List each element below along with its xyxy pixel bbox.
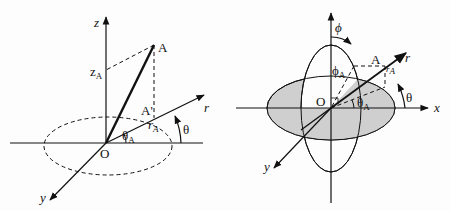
theta-arrow-arc [175,116,181,143]
phi-arrow-arc [331,37,351,44]
theta-label: θ [183,122,189,137]
y-axis-label: y [262,159,270,174]
theta-a-label: θA [122,128,135,145]
z-axis-label: z [93,15,99,30]
origin-label: O [100,146,109,161]
x-axis-label: x [433,100,440,115]
right-diagram: ϕ ϕA A r rA θ θA O x y [236,13,440,203]
r-axis-label: r [204,100,210,115]
point-a-label: A [371,52,381,67]
point-a-label: A [158,40,168,55]
a-prime-label: A' [141,103,153,118]
figure-svg: z A zA A' r rA θ θA O y [0,0,450,211]
coordinate-systems-figure: z A zA A' r rA θ θA O y [0,0,450,211]
y-axis-label: y [38,190,46,205]
theta-label: θ [406,90,412,105]
y-axis [50,143,106,200]
r-a-label: rA [386,64,396,76]
theta-arrow-arc [398,84,405,108]
phi-label: ϕ [335,20,342,35]
vector-oa [106,45,154,143]
r-axis-label: r [405,50,411,65]
r-axis [106,95,204,143]
origin-label: O [316,94,325,109]
left-diagram: z A zA A' r rA θ θA O y [10,15,210,205]
z-a-label: zA [90,64,103,81]
